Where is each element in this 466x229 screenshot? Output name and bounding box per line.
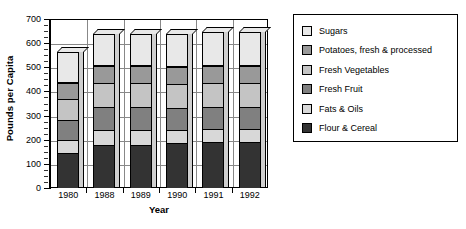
legend-item[interactable]: Fresh Fruit [302,80,457,100]
x-axis-tick-label: 1988 [94,190,114,200]
y-axis-minor-tick [44,31,48,32]
bar-segment[interactable] [130,66,152,83]
legend-swatch [302,84,312,94]
x-axis-tick-mark [232,188,233,193]
bar-segment[interactable] [202,83,224,107]
y-axis-tick-label: 400 [26,87,41,96]
bar-group [195,19,231,188]
bar-segment[interactable] [239,107,261,129]
bar-segment[interactable] [166,67,188,84]
stacked-bar[interactable] [202,32,224,188]
bar-segment[interactable] [130,130,152,144]
bar-segment[interactable] [166,108,188,130]
bar-3d-side-face [152,29,157,189]
bar-segment[interactable] [239,129,261,142]
y-axis-title-text: Pounds per Capita [5,55,16,141]
y-axis-tick-label: 700 [26,15,41,24]
bar-segment[interactable] [202,107,224,129]
bar-segment[interactable] [239,83,261,107]
bar-3d-side-face [115,29,120,189]
bar-segment[interactable] [166,143,188,188]
x-axis-tick-mark [86,188,87,193]
legend-item[interactable]: Fats & Oils [302,99,457,119]
legend-swatch [302,45,312,55]
bar-segment[interactable] [130,34,152,67]
x-axis-title: Year [50,204,268,215]
legend-swatch [302,65,312,75]
y-axis-minor-tick [44,158,48,159]
x-axis-tick-label: 1992 [240,190,260,200]
y-axis-minor-tick [44,122,48,123]
bar-segment[interactable] [202,66,224,83]
bar-segment[interactable] [202,32,224,66]
y-axis-title: Pounds per Capita [2,28,18,168]
legend: SugarsPotatoes, fresh & processedFresh V… [293,14,458,142]
bar-segment[interactable] [166,84,188,108]
bar-group [123,19,159,188]
bar-segment[interactable] [166,34,188,68]
bar-segment[interactable] [57,99,79,121]
bar-segment[interactable] [202,129,224,142]
bar-segment[interactable] [93,130,115,144]
stacked-bar[interactable] [130,34,152,189]
bars-layer [50,19,268,188]
legend-swatch [302,26,312,36]
bar-segment[interactable] [130,83,152,107]
bar-segment[interactable] [130,145,152,188]
bar-3d-top-face [57,47,89,52]
y-axis-tick-label: 600 [26,39,41,48]
bar-group [232,19,268,188]
y-axis-tick-label: 500 [26,63,41,72]
y-axis-minor-tick [44,134,48,135]
bar-segment[interactable] [57,153,79,188]
chart-figure: Pounds per Capita 0100200300400500600700… [0,0,466,229]
bar-segment[interactable] [57,140,79,153]
bar-segment[interactable] [57,52,79,83]
bar-segment[interactable] [93,34,115,67]
y-axis-minor-tick [44,170,48,171]
plot-area-wrapper: Pounds per Capita 0100200300400500600700… [0,0,285,229]
bar-3d-side-face [261,27,266,188]
bar-segment[interactable] [166,130,188,143]
bar-3d-side-face [188,29,193,189]
legend-item[interactable]: Flour & Cereal [302,119,457,139]
legend-item[interactable]: Sugars [302,21,457,41]
bar-group [86,19,122,188]
x-axis-tick-mark [123,188,124,193]
stacked-bar[interactable] [57,52,79,188]
bar-segment[interactable] [57,83,79,99]
x-axis-tick-labels: 198019881989199019911992 [50,190,268,204]
legend-item[interactable]: Fresh Vegetables [302,60,457,80]
bar-3d-top-face [130,29,162,34]
y-axis-minor-tick [44,73,48,74]
legend-item[interactable]: Potatoes, fresh & processed [302,41,457,61]
y-axis-minor-tick [44,85,48,86]
bar-segment[interactable] [239,32,261,66]
y-axis-minor-tick [44,176,48,177]
bar-segment[interactable] [93,66,115,83]
stacked-bar[interactable] [239,32,261,188]
bar-segment[interactable] [93,83,115,107]
bar-group [159,19,195,188]
bar-segment[interactable] [57,120,79,139]
y-axis-tick-labels: 0100200300400500600700 [18,14,44,194]
bar-3d-top-face [93,29,125,34]
stacked-bar[interactable] [166,34,188,189]
bar-segment[interactable] [239,66,261,83]
bar-segment[interactable] [93,107,115,130]
bar-segment[interactable] [130,107,152,130]
legend-label: Potatoes, fresh & processed [319,45,432,55]
y-axis-minor-tick [44,25,48,26]
bar-segment[interactable] [202,142,224,188]
legend-label: Fats & Oils [319,104,363,114]
stacked-bar[interactable] [93,34,115,189]
y-axis-tick-label: 0 [36,184,41,193]
x-axis-tick-label: 1980 [58,190,78,200]
y-axis-minor-tick [44,152,48,153]
bar-segment[interactable] [239,142,261,188]
y-axis-minor-tick [44,37,48,38]
y-axis-tick-label: 100 [26,159,41,168]
y-axis-minor-tick [44,110,48,111]
x-axis-tick-label: 1990 [167,190,187,200]
bar-segment[interactable] [93,145,115,188]
